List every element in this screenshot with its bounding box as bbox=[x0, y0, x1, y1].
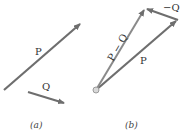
label-p-minus-q-b: P − Q bbox=[105, 32, 129, 63]
caption-a: (a) bbox=[30, 120, 43, 130]
label-neg-q-b: −Q bbox=[163, 2, 180, 13]
origin-point bbox=[93, 87, 99, 93]
label-q-a: Q bbox=[42, 81, 50, 92]
vector-q-a bbox=[28, 92, 64, 103]
panel-b: P −Q P − Q (b) bbox=[93, 2, 180, 130]
panel-a: P Q (a) bbox=[4, 24, 80, 130]
caption-b: (b) bbox=[125, 120, 138, 130]
label-p-b: P bbox=[140, 55, 147, 66]
label-p-a: P bbox=[35, 46, 42, 57]
vector-diagram: P Q (a) P −Q P − Q (b) bbox=[0, 0, 184, 135]
